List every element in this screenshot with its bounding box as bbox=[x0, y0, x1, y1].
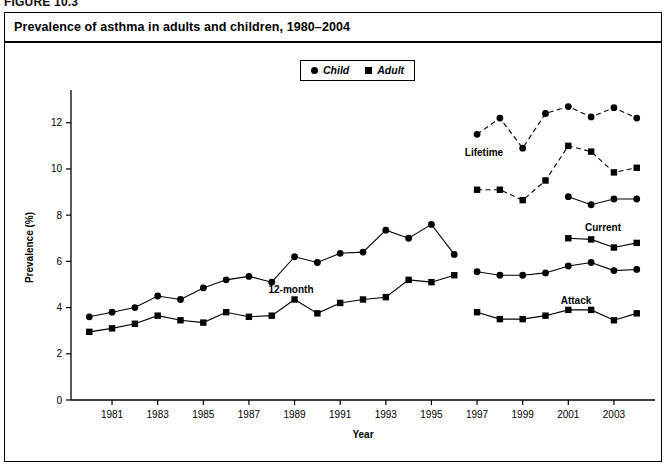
data-point-square bbox=[154, 312, 160, 318]
data-point-square bbox=[611, 169, 617, 175]
x-tick-label: 1993 bbox=[375, 409, 398, 420]
x-tick-label: 1981 bbox=[101, 409, 124, 420]
y-tick-label: 2 bbox=[56, 348, 62, 359]
data-point-square bbox=[474, 187, 480, 193]
data-point-square bbox=[588, 307, 594, 313]
series-line bbox=[568, 238, 636, 247]
x-tick-label: 1989 bbox=[283, 409, 306, 420]
data-point-circle bbox=[611, 196, 618, 203]
data-point-circle bbox=[428, 221, 435, 228]
data-point-square bbox=[542, 312, 548, 318]
data-point-square bbox=[428, 279, 434, 285]
x-tick-label: 1999 bbox=[512, 409, 535, 420]
data-point-circle bbox=[496, 115, 503, 122]
series-line bbox=[477, 107, 637, 149]
data-point-circle bbox=[86, 313, 93, 320]
data-point-square bbox=[177, 317, 183, 323]
annotation-lifetime: Lifetime bbox=[465, 147, 504, 158]
data-point-square bbox=[611, 317, 617, 323]
data-point-circle bbox=[131, 304, 138, 311]
data-point-circle bbox=[177, 296, 184, 303]
series-attack-child bbox=[474, 259, 640, 279]
data-point-circle bbox=[451, 251, 458, 258]
data-point-square bbox=[223, 309, 229, 315]
y-axis-title: Prevalence (%) bbox=[24, 212, 35, 283]
x-tick-label: 1985 bbox=[192, 409, 215, 420]
data-point-circle bbox=[519, 272, 526, 279]
y-tick-label: 6 bbox=[56, 256, 62, 267]
data-point-square bbox=[611, 244, 617, 250]
x-tick-label: 1983 bbox=[147, 409, 170, 420]
data-point-circle bbox=[405, 235, 412, 242]
data-point-square bbox=[497, 187, 503, 193]
data-point-circle bbox=[519, 145, 526, 152]
x-tick-label: 1987 bbox=[238, 409, 261, 420]
series-line bbox=[568, 197, 636, 205]
data-point-circle bbox=[633, 115, 640, 122]
data-point-circle bbox=[314, 259, 321, 266]
x-tick-label: 1995 bbox=[420, 409, 443, 420]
data-point-circle bbox=[496, 272, 503, 279]
series-12-month-child bbox=[86, 221, 458, 320]
data-point-square bbox=[634, 310, 640, 316]
data-point-circle bbox=[474, 131, 481, 138]
data-point-square bbox=[200, 319, 206, 325]
data-point-circle bbox=[109, 309, 116, 316]
data-point-circle bbox=[588, 259, 595, 266]
data-point-square bbox=[519, 197, 525, 203]
data-point-circle bbox=[474, 268, 481, 275]
data-point-square bbox=[360, 296, 366, 302]
data-point-circle bbox=[200, 285, 207, 292]
series-lifetime-child bbox=[474, 103, 640, 151]
y-tick-label: 10 bbox=[51, 163, 63, 174]
annotation-attack: Attack bbox=[561, 295, 592, 306]
data-point-circle bbox=[633, 196, 640, 203]
data-point-square bbox=[588, 148, 594, 154]
annotation-current: Current bbox=[585, 222, 622, 233]
data-point-circle bbox=[611, 267, 618, 274]
data-point-circle bbox=[542, 270, 549, 277]
data-point-square bbox=[269, 312, 275, 318]
y-tick-label: 12 bbox=[51, 117, 63, 128]
data-point-square bbox=[246, 314, 252, 320]
data-point-circle bbox=[291, 253, 298, 260]
y-tick-label: 4 bbox=[56, 302, 62, 313]
series-current-child bbox=[565, 193, 640, 208]
data-point-square bbox=[291, 296, 297, 302]
series-current-adult bbox=[565, 235, 640, 251]
data-point-square bbox=[86, 329, 92, 335]
data-point-square bbox=[474, 309, 480, 315]
data-point-circle bbox=[565, 263, 572, 270]
figure-container: FIGURE 10.3 Prevalence of asthma in adul… bbox=[0, 0, 670, 469]
data-point-circle bbox=[565, 193, 572, 200]
x-tick-label: 2003 bbox=[603, 409, 626, 420]
x-tick-label: 2001 bbox=[557, 409, 580, 420]
data-point-square bbox=[132, 321, 138, 327]
annotation-12-month: 12-month bbox=[269, 284, 314, 295]
series-attack-adult bbox=[474, 307, 640, 324]
x-tick-label: 1997 bbox=[466, 409, 489, 420]
data-point-circle bbox=[588, 114, 595, 121]
chart-plot-area: 0246810121981198319851987198919911993199… bbox=[0, 0, 670, 469]
data-point-square bbox=[451, 272, 457, 278]
data-point-square bbox=[519, 316, 525, 322]
y-tick-label: 8 bbox=[56, 210, 62, 221]
data-point-square bbox=[405, 277, 411, 283]
data-point-circle bbox=[588, 201, 595, 208]
data-point-circle bbox=[382, 227, 389, 234]
data-point-square bbox=[565, 235, 571, 241]
data-point-circle bbox=[154, 293, 161, 300]
data-point-circle bbox=[337, 250, 344, 257]
y-tick-label: 0 bbox=[56, 395, 62, 406]
data-point-square bbox=[314, 310, 320, 316]
data-point-square bbox=[497, 316, 503, 322]
data-point-square bbox=[109, 325, 115, 331]
data-point-circle bbox=[633, 266, 640, 273]
data-point-circle bbox=[360, 249, 367, 256]
data-point-circle bbox=[223, 276, 230, 283]
series-line bbox=[89, 224, 454, 316]
data-point-square bbox=[634, 165, 640, 171]
data-point-circle bbox=[565, 103, 572, 110]
data-point-square bbox=[634, 240, 640, 246]
data-point-square bbox=[588, 236, 594, 242]
